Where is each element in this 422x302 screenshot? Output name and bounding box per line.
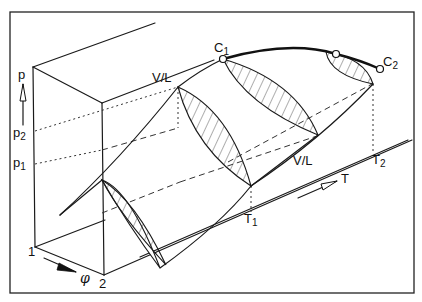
label-component-2: 2 <box>99 276 106 291</box>
label-t2: T2 <box>372 152 386 169</box>
two-phase-lens-3 <box>223 59 318 135</box>
label-c2: C2 <box>383 54 398 71</box>
phi-axis-arrow-icon <box>57 263 76 272</box>
p1-guide <box>35 150 102 164</box>
vl-curve-upper <box>60 59 223 215</box>
label-vl-lower: V/L <box>293 153 313 168</box>
label-c1: C1 <box>214 40 229 57</box>
label-component-1: 1 <box>28 244 35 259</box>
p2-guide <box>35 87 178 131</box>
two-phase-lens-1-fill <box>102 180 166 265</box>
two-phase-lens-2 <box>178 87 251 186</box>
label-t-axis: T <box>341 171 349 186</box>
phase-diagram: C1 C2 V/L V/L p p2 p1 1 2 φ T T1 T2 <box>0 0 422 302</box>
label-p1: p1 <box>13 155 26 172</box>
t-axis-line <box>140 140 408 257</box>
label-t1: T1 <box>244 211 258 228</box>
label-phi-axis: φ <box>80 270 90 286</box>
label-p-axis: p <box>18 67 25 82</box>
label-vl-upper: V/L <box>152 70 172 85</box>
p-axis-arrow-icon <box>20 84 26 101</box>
label-p2: p2 <box>13 125 26 142</box>
critical-point-mid <box>333 51 340 58</box>
dashed-back-3 <box>102 128 178 150</box>
t-axis-arrow-icon <box>321 181 337 190</box>
